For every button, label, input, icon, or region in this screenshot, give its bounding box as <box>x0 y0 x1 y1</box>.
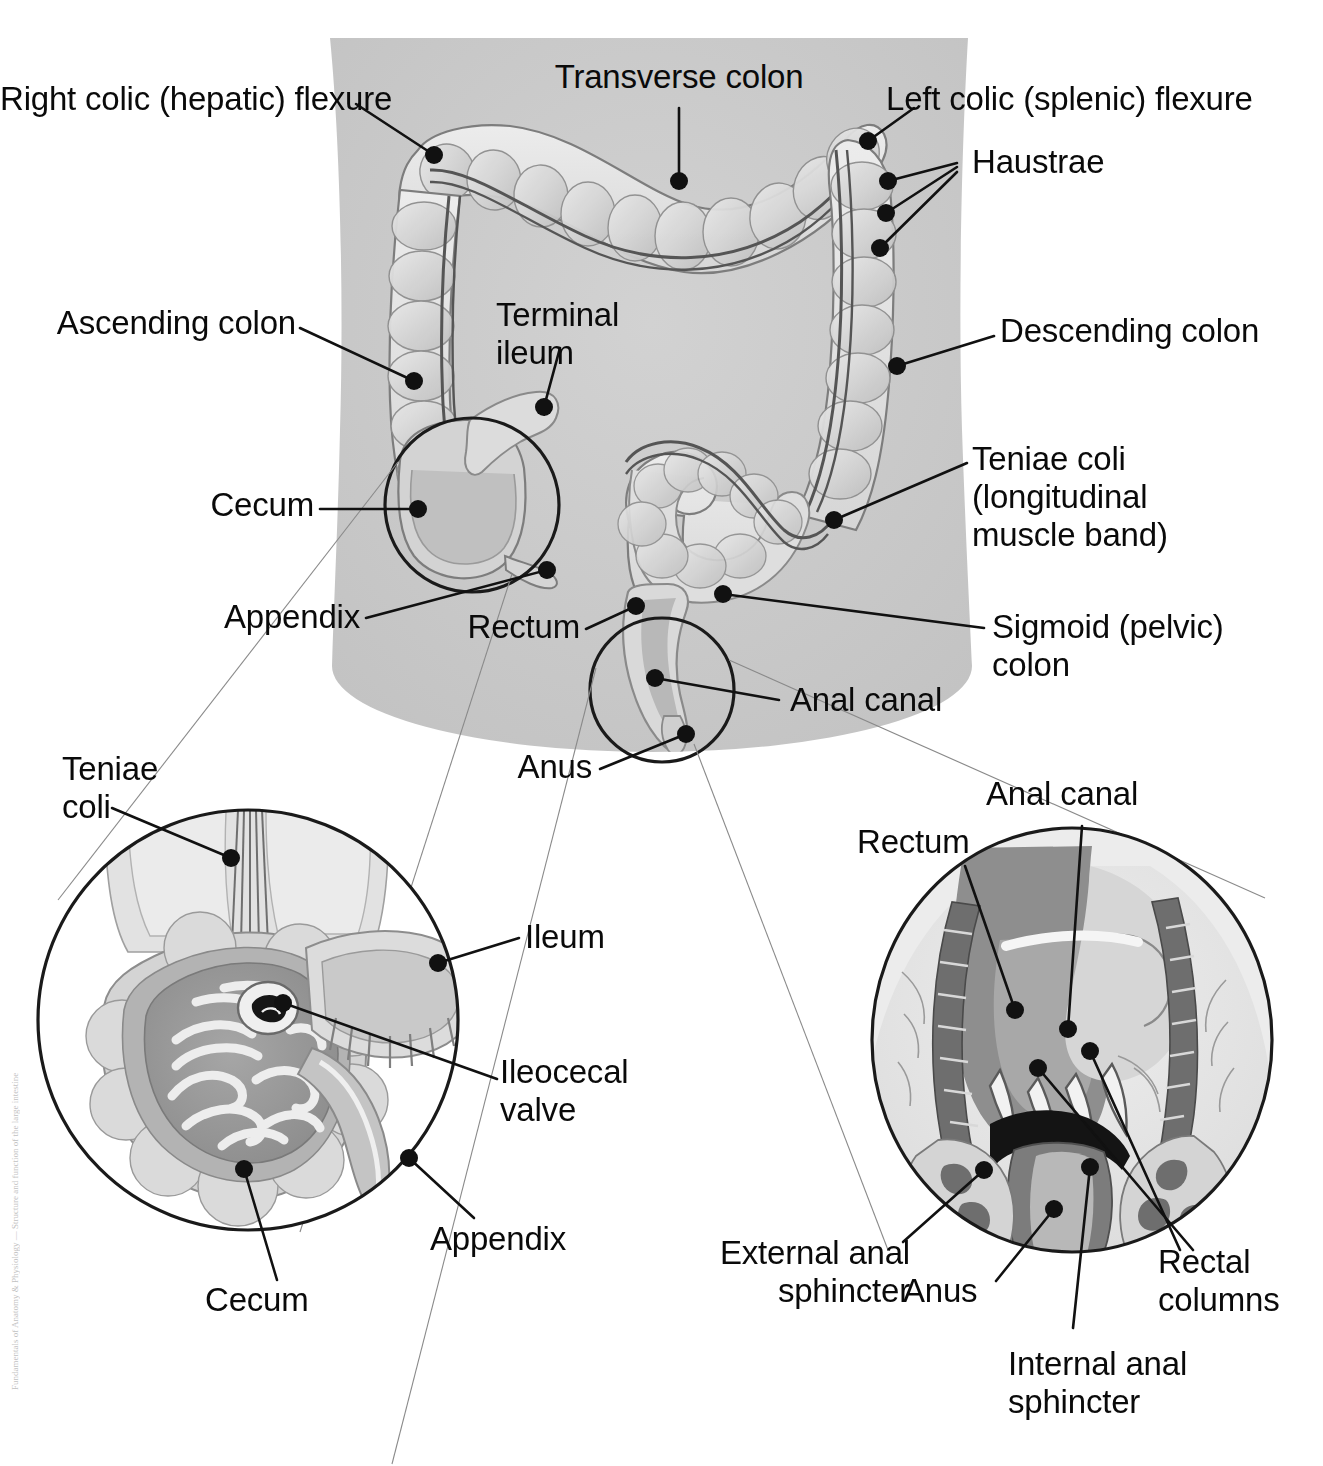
label-terminal-ileum-line2: ileum <box>496 334 574 372</box>
label-inset-right-anus: Anus <box>903 1272 977 1310</box>
label-anus-main: Anus <box>300 748 592 786</box>
label-cecum-main: Cecum <box>0 486 314 524</box>
label-descending-colon: Descending colon <box>1000 312 1259 350</box>
label-inset-right-internal-line1: Internal anal <box>1008 1345 1187 1383</box>
label-inset-left-teniae-line2: coli <box>62 788 111 826</box>
label-teniae-coli-line1: Teniae coli <box>972 440 1126 478</box>
label-left-colic-flexure: Left colic (splenic) flexure <box>886 80 1253 118</box>
label-inset-right-rectal-line2: columns <box>1158 1281 1279 1319</box>
label-inset-left-cecum: Cecum <box>205 1281 309 1319</box>
label-sigmoid-colon-line1: Sigmoid (pelvic) <box>992 608 1224 646</box>
label-inset-right-anal-canal: Anal canal <box>986 775 1138 813</box>
label-teniae-coli-line2: (longitudinal <box>972 478 1147 516</box>
publisher-credit: Fundamentals of Anatomy & Physiology — S… <box>10 690 20 1390</box>
label-terminal-ileum-line1: Terminal <box>496 296 619 334</box>
label-haustrae: Haustrae <box>972 143 1104 181</box>
label-right-colic-flexure: Right colic (hepatic) flexure <box>0 80 352 118</box>
label-ascending-colon: Ascending colon <box>0 304 296 342</box>
label-inset-right-internal-line2: sphincter <box>1008 1383 1140 1421</box>
label-inset-left-appendix: Appendix <box>430 1220 566 1258</box>
inset-anal-canal <box>860 820 1290 1270</box>
label-sigmoid-colon-line2: colon <box>992 646 1070 684</box>
label-inset-left-teniae-line1: Teniae <box>62 750 158 788</box>
label-teniae-coli-line3: muscle band) <box>972 516 1168 554</box>
label-rectum-main: Rectum <box>280 608 580 646</box>
label-inset-left-ileocecal-line1: Ileocecal <box>500 1053 628 1091</box>
label-inset-right-external-line1: External anal <box>608 1234 910 1272</box>
label-inset-right-rectum: Rectum <box>857 823 970 861</box>
label-inset-right-external-line2: sphincter <box>608 1272 910 1310</box>
anatomy-figure: Right colic (hepatic) flexure Transverse… <box>0 0 1323 1466</box>
label-inset-left-ileum: Ileum <box>525 918 605 956</box>
label-transverse-colon: Transverse colon <box>529 58 829 96</box>
label-inset-right-rectal-line1: Rectal <box>1158 1243 1250 1281</box>
label-inset-left-ileocecal-line2: valve <box>500 1091 576 1129</box>
label-anal-canal-main: Anal canal <box>790 681 942 719</box>
